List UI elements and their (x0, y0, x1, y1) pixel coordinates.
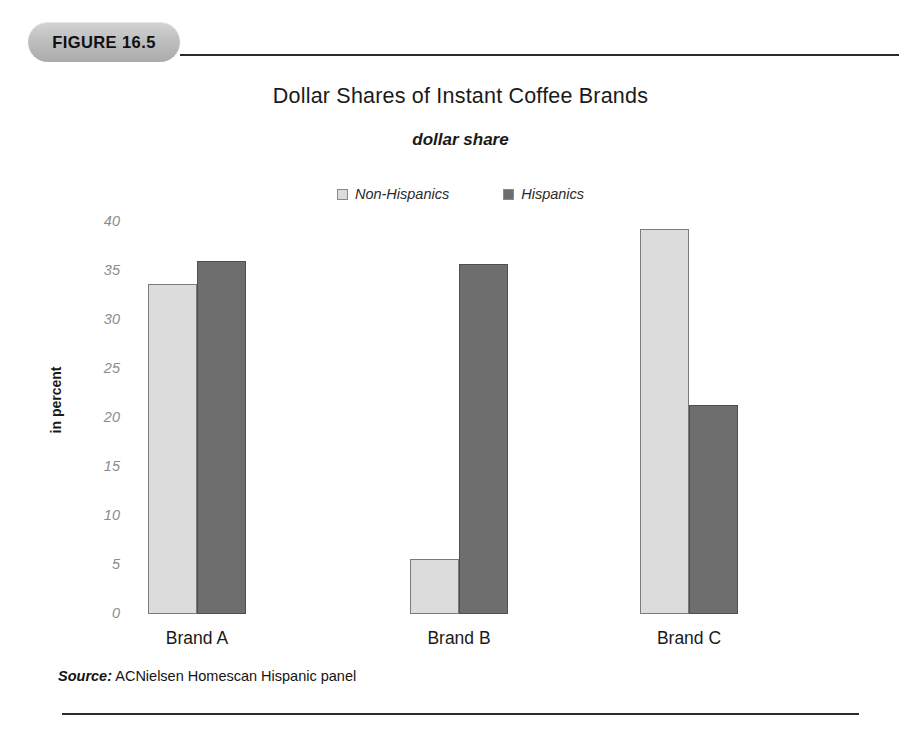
x-axis-category-label: Brand C (600, 628, 778, 649)
y-axis-tick-label: 10 (62, 508, 120, 523)
y-axis-tick-label: 30 (62, 312, 120, 327)
y-axis-tick-label: 25 (62, 361, 120, 376)
bar (640, 229, 689, 614)
y-axis-tick-label: 0 (62, 606, 120, 621)
bar (410, 559, 459, 614)
bar (148, 284, 197, 614)
bar (459, 264, 508, 614)
x-axis-category-label: Brand A (108, 628, 286, 649)
source-label: Source: (58, 668, 112, 684)
source-note: Source: ACNielsen Homescan Hispanic pane… (58, 668, 356, 684)
x-axis-category-label: Brand B (370, 628, 548, 649)
y-axis-title: in percent (48, 340, 64, 460)
footer-divider (62, 713, 859, 715)
y-axis-tick-label: 40 (62, 214, 120, 229)
y-axis-tick-label: 15 (62, 459, 120, 474)
y-axis-tick-label: 5 (62, 557, 120, 572)
bar (197, 261, 246, 614)
source-text: ACNielsen Homescan Hispanic panel (115, 668, 356, 684)
y-axis-tick-label: 20 (62, 410, 120, 425)
chart-plot-area: in percent 4035302520151050 Brand ABrand… (0, 0, 921, 751)
y-axis-tick-label: 35 (62, 263, 120, 278)
bar (689, 405, 738, 614)
